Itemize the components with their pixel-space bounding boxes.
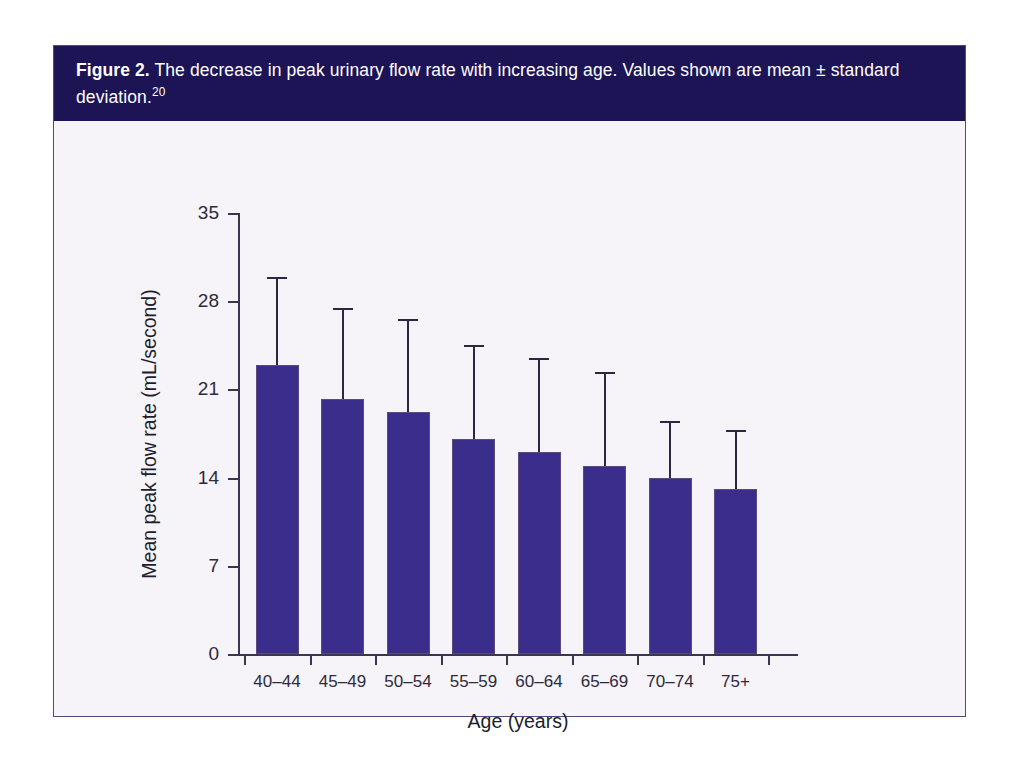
errorbar-stem-75+	[735, 430, 737, 489]
x-tick-label-50–54: 50–54	[384, 672, 431, 692]
x-axis-title: Age (years)	[468, 710, 569, 733]
errorbar-stem-55–59	[473, 345, 475, 438]
x-tick-label-45–49: 45–49	[319, 672, 366, 692]
bar-60–64	[518, 452, 561, 654]
errorbar-cap-45–49	[333, 308, 353, 310]
y-tick-21: 21	[228, 389, 239, 391]
errorbar-stem-45–49	[342, 308, 344, 400]
x-tick-1	[310, 654, 312, 665]
x-axis-line	[238, 654, 798, 656]
bar-40–44	[256, 365, 299, 654]
chart-plot-area: 0714212835 40–4445–4950–5455–5960–6465–6…	[54, 121, 965, 716]
x-tick-0	[244, 654, 246, 665]
errorbar-stem-65–69	[604, 372, 606, 467]
y-tick-label: 21	[198, 378, 219, 400]
y-tick-7: 7	[228, 566, 239, 568]
x-tick-7	[703, 654, 705, 665]
figure-caption-text: The decrease in peak urinary flow rate w…	[76, 60, 900, 107]
figure-number-label: Figure 2.	[76, 60, 150, 80]
y-tick-label: 14	[198, 467, 219, 489]
bar-45–49	[321, 399, 364, 654]
x-tick-6	[637, 654, 639, 665]
bar-65–69	[583, 466, 626, 654]
errorbar-stem-40–44	[276, 277, 278, 365]
y-tick-35: 35	[228, 213, 239, 215]
errorbar-cap-65–69	[595, 372, 615, 374]
x-tick-3	[441, 654, 443, 665]
x-tick-label-75+: 75+	[721, 672, 750, 692]
errorbar-cap-50–54	[398, 319, 418, 321]
x-tick-label-40–44: 40–44	[253, 672, 300, 692]
y-tick-0: 0	[228, 654, 239, 656]
x-tick-label-65–69: 65–69	[581, 672, 628, 692]
x-tick-4	[506, 654, 508, 665]
y-tick-label: 28	[198, 290, 219, 312]
y-tick-label: 35	[198, 202, 219, 224]
figure-container: Figure 2. The decrease in peak urinary f…	[53, 45, 966, 717]
y-tick-label: 7	[208, 555, 219, 577]
x-tick-label-70–74: 70–74	[646, 672, 693, 692]
x-tick-label-60–64: 60–64	[515, 672, 562, 692]
errorbar-cap-55–59	[464, 345, 484, 347]
y-axis-title: Mean peak flow rate (mL/second)	[138, 289, 161, 578]
bar-75+	[714, 489, 757, 654]
y-tick-14: 14	[228, 478, 239, 480]
y-tick-28: 28	[228, 301, 239, 303]
figure-caption-banner: Figure 2. The decrease in peak urinary f…	[54, 46, 965, 121]
errorbar-stem-70–74	[669, 421, 671, 478]
bar-50–54	[387, 412, 430, 654]
x-tick-2	[375, 654, 377, 665]
x-tick-5	[572, 654, 574, 665]
y-axis-line	[238, 213, 240, 655]
bar-55–59	[452, 439, 495, 654]
bar-70–74	[649, 478, 692, 654]
errorbar-cap-75+	[726, 430, 746, 432]
errorbar-cap-40–44	[267, 277, 287, 279]
figure-reference-superscript: 20	[152, 85, 165, 99]
x-tick-end	[768, 654, 770, 665]
errorbar-cap-70–74	[660, 421, 680, 423]
x-tick-label-55–59: 55–59	[450, 672, 497, 692]
errorbar-stem-60–64	[538, 358, 540, 453]
errorbar-stem-50–54	[407, 319, 409, 412]
y-tick-label: 0	[208, 643, 219, 665]
errorbar-cap-60–64	[529, 358, 549, 360]
